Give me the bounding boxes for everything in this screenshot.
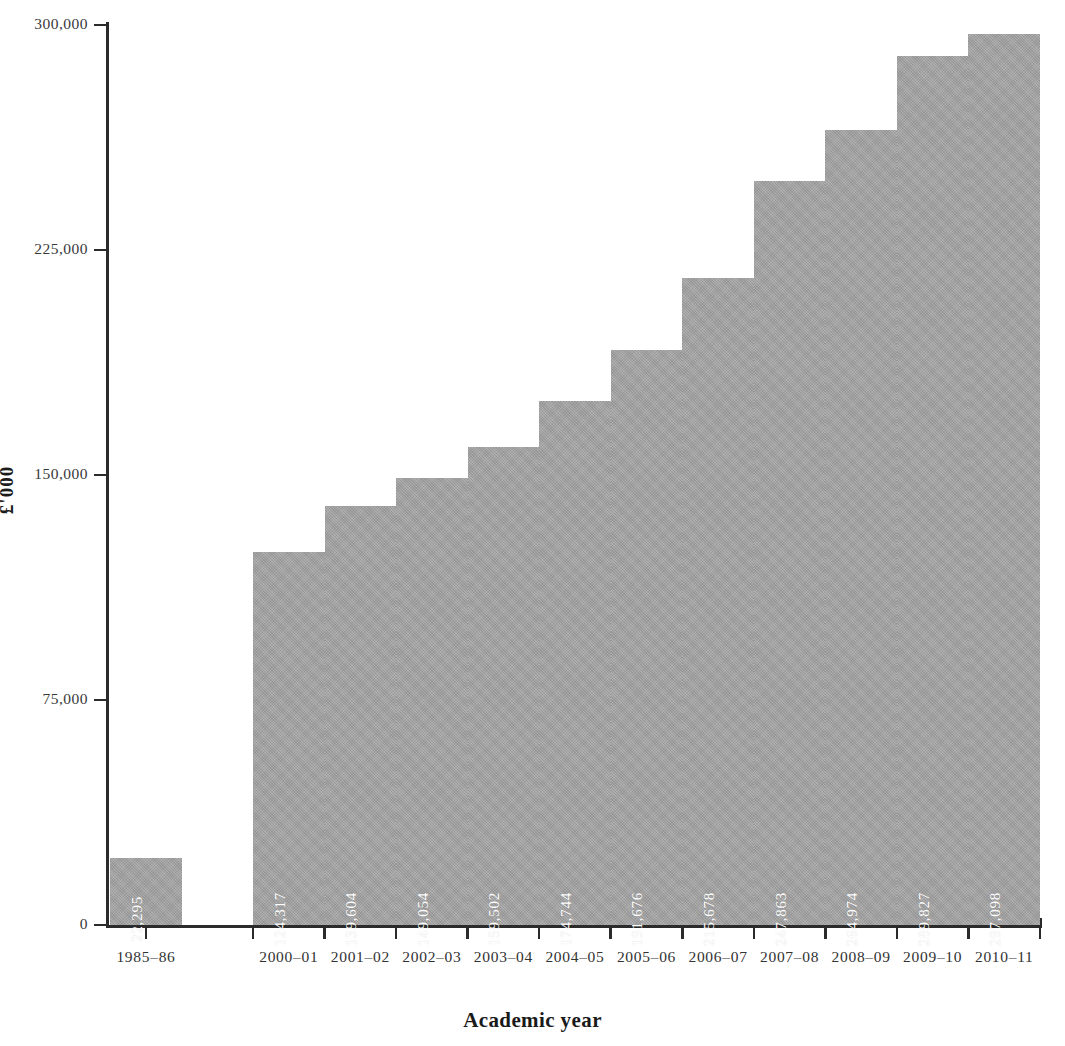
bar-value-label: 174,744 — [558, 892, 575, 946]
bar-value-label: 191,676 — [629, 892, 646, 946]
bar-chart-figure: £'000 075,000150,000225,000300,000 22,29… — [0, 0, 1065, 1046]
plot-area: 22,295124,317139,604149,054159,502174,74… — [0, 0, 1065, 925]
bar[interactable]: 159,502 — [468, 447, 540, 926]
x-axis-title: Academic year — [0, 1008, 1065, 1033]
x-tick-label: 1985–86 — [116, 948, 175, 966]
bar-value-label: 297,098 — [987, 892, 1004, 946]
bar[interactable]: 22,295 — [110, 858, 182, 925]
bar[interactable]: 215,678 — [682, 278, 754, 925]
bar-value-label: 264,974 — [844, 892, 861, 946]
x-tick-mark — [538, 926, 541, 939]
bar-value-label: 124,317 — [272, 892, 289, 946]
x-tick-mark — [466, 926, 469, 939]
x-tick-label: 2000–01 — [259, 948, 318, 966]
x-tick-mark — [681, 926, 684, 939]
bar[interactable]: 149,054 — [396, 478, 468, 925]
x-tick-mark — [145, 926, 148, 939]
x-tick-label: 2003–04 — [474, 948, 533, 966]
x-tick-mark — [967, 926, 970, 939]
x-tick-mark — [609, 926, 612, 939]
x-tick-label: 2002–03 — [402, 948, 461, 966]
bar-value-label: 139,604 — [343, 892, 360, 946]
bar[interactable]: 289,827 — [897, 56, 969, 925]
bar-value-label: 159,502 — [486, 892, 503, 946]
x-tick-label: 2004–05 — [545, 948, 604, 966]
x-tick-label: 2006–07 — [688, 948, 747, 966]
x-tick-label: 2010–11 — [975, 948, 1034, 966]
bar-value-label: 149,054 — [415, 892, 432, 946]
x-tick-mark — [753, 926, 756, 939]
x-tick-mark — [323, 926, 326, 939]
bar-value-label: 289,827 — [916, 892, 933, 946]
bar[interactable]: 139,604 — [325, 506, 397, 925]
bar[interactable]: 191,676 — [611, 350, 683, 925]
bar[interactable]: 247,863 — [754, 181, 826, 925]
bar[interactable]: 174,744 — [539, 401, 611, 925]
bar[interactable]: 124,317 — [253, 552, 325, 925]
bar-value-label: 215,678 — [701, 892, 718, 946]
x-tick-label: 2007–08 — [760, 948, 819, 966]
x-tick-mark — [252, 926, 255, 939]
x-tick-mark — [1039, 926, 1042, 939]
bar[interactable]: 297,098 — [968, 34, 1040, 925]
bar[interactable]: 264,974 — [825, 130, 897, 925]
x-tick-label: 2001–02 — [331, 948, 390, 966]
x-tick-mark — [824, 926, 827, 939]
bar-value-label: 247,863 — [773, 892, 790, 946]
x-tick-label: 2008–09 — [832, 948, 891, 966]
x-tick-label: 2005–06 — [617, 948, 676, 966]
x-tick-label: 2009–10 — [903, 948, 962, 966]
x-tick-mark — [395, 926, 398, 939]
bar-value-label: 22,295 — [129, 896, 146, 942]
x-tick-mark — [896, 926, 899, 939]
